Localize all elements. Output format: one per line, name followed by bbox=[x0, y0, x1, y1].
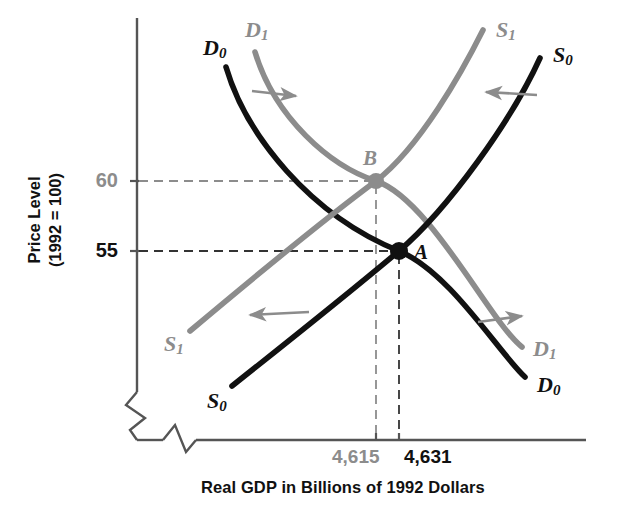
x-axis-break-icon bbox=[163, 425, 196, 452]
curve-label-d1-lower: D1 bbox=[533, 336, 556, 363]
supply-demand-diagram bbox=[0, 0, 633, 524]
curve-label-d1-lower-sub: 1 bbox=[549, 346, 557, 362]
y-axis-title-line1: Price Level bbox=[24, 110, 45, 330]
curve-label-s0-lower-text: S bbox=[207, 388, 219, 413]
curve-label-s1-lower-text: S bbox=[164, 331, 176, 356]
curve-label-d0-upper-sub: 0 bbox=[219, 45, 227, 61]
x-tick-label-4615: 4,615 bbox=[332, 446, 380, 468]
point-label-b: B bbox=[363, 146, 377, 171]
curve-label-d1-upper-text: D bbox=[245, 17, 261, 42]
chart-canvas: 60 55 4,615 4,631 Real GDP in Billions o… bbox=[0, 0, 633, 524]
curve-label-s1-lower: S1 bbox=[164, 331, 184, 358]
y-axis-break-icon bbox=[126, 392, 145, 440]
curve-label-d0-upper-text: D bbox=[203, 35, 219, 60]
curve-label-s0-lower: S0 bbox=[207, 388, 227, 415]
curve-label-s0-upper-text: S bbox=[553, 42, 565, 67]
curve-label-d0-lower-text: D bbox=[537, 372, 553, 397]
x-axis-title: Real GDP in Billions of 1992 Dollars bbox=[201, 478, 485, 497]
y-tick-label-60: 60 bbox=[62, 169, 118, 192]
curve-label-s0-upper-sub: 0 bbox=[565, 52, 573, 68]
curve-label-d1-upper-sub: 1 bbox=[261, 27, 269, 43]
curve-label-s1-upper: S1 bbox=[496, 17, 516, 44]
curve-label-d1-lower-text: D bbox=[533, 336, 549, 361]
curve-label-d0-lower-sub: 0 bbox=[553, 382, 561, 398]
curve-label-d0-lower: D0 bbox=[537, 372, 560, 399]
curve-label-s1-upper-text: S bbox=[496, 17, 508, 42]
point-b-dot bbox=[368, 173, 384, 189]
point-label-a: A bbox=[414, 240, 428, 265]
y-tick-label-55: 55 bbox=[62, 239, 118, 262]
arrow-supply-shift-lower bbox=[250, 312, 309, 315]
curve-label-s0-lower-sub: 0 bbox=[219, 398, 227, 414]
point-a-dot bbox=[390, 242, 408, 260]
curve-label-s1-upper-sub: 1 bbox=[508, 27, 516, 43]
y-axis-title-line2: (1992 = 100) bbox=[45, 110, 66, 330]
curve-label-d0-upper: D0 bbox=[203, 35, 226, 62]
y-axis-title: Price Level (1992 = 100) bbox=[24, 110, 65, 330]
curve-label-d1-upper: D1 bbox=[245, 17, 268, 44]
curve-label-s1-lower-sub: 1 bbox=[176, 341, 184, 357]
curve-label-s0-upper: S0 bbox=[553, 42, 573, 69]
x-tick-label-4631: 4,631 bbox=[404, 446, 452, 468]
arrow-supply-shift-upper bbox=[486, 92, 537, 95]
